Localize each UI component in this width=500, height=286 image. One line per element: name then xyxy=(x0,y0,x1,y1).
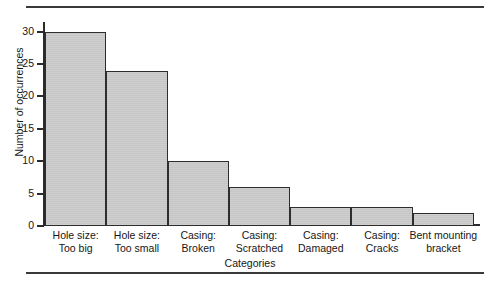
bar-series xyxy=(45,22,474,226)
y-axis-tick xyxy=(37,63,44,65)
bottom-horizontal-rule xyxy=(26,272,484,274)
y-axis-tick xyxy=(37,160,44,162)
bar xyxy=(290,207,351,226)
top-horizontal-rule xyxy=(26,6,484,8)
x-axis-title: Categories xyxy=(0,257,500,269)
y-axis-tick xyxy=(37,95,44,97)
y-axis-tick xyxy=(37,31,44,33)
bar xyxy=(45,32,106,226)
bar xyxy=(351,207,412,226)
bar xyxy=(413,213,474,226)
y-axis-title: Number of occurrences xyxy=(13,22,25,182)
y-axis-tick xyxy=(37,225,44,227)
bar xyxy=(229,187,290,226)
y-axis-tick-label: 5 xyxy=(28,188,34,199)
y-axis-tick xyxy=(37,128,44,130)
x-axis-category-label: Bent mountingbracket xyxy=(405,229,482,254)
bar xyxy=(106,71,167,226)
y-axis-tick xyxy=(37,193,44,195)
bar-chart-figure: 051015202530 Number of occurrences Hole … xyxy=(0,0,500,286)
y-axis-tick-label: 0 xyxy=(28,220,34,231)
bar xyxy=(168,161,229,226)
